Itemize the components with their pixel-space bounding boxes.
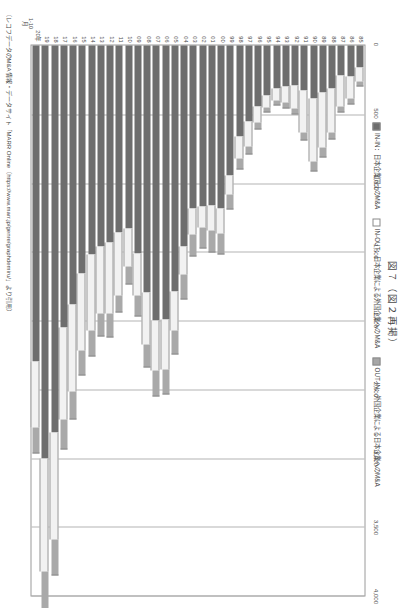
bar-segment-out-in: [162, 369, 169, 394]
bar-segment-in-in: [32, 45, 39, 361]
bar-segment-in-in: [226, 45, 233, 175]
bar-segment-in-out: [261, 95, 270, 107]
bar-segment-in-in: [273, 45, 280, 88]
bar-segment-in-out: [104, 242, 113, 313]
bar-segment-out-in: [134, 295, 141, 316]
bar-segment-in-in: [97, 45, 104, 246]
bar-segment-in-out: [317, 92, 326, 148]
bar-segment-out-in: [300, 132, 307, 140]
bar-segment-out-in: [254, 122, 261, 129]
bar-segment-in-out: [354, 67, 363, 81]
bar-segment-in-out: [298, 90, 307, 131]
bar-segment-in-out: [113, 232, 122, 295]
bar-segment-in-in: [300, 45, 307, 90]
y-category-label: 86: [348, 36, 354, 42]
bar-segment-out-in: [337, 106, 344, 112]
bar-segment-in-in: [51, 45, 58, 432]
x-tick-label: 2,500: [372, 381, 379, 396]
bar-segment-out-in: [208, 230, 215, 252]
y-category-label: 02: [200, 36, 206, 42]
bar-row: [162, 45, 169, 394]
y-axis-category-labels: 8586878889909192939495969798990001020304…: [30, 20, 365, 44]
bar-segment-out-in: [78, 350, 85, 375]
bar-segment-in-in: [69, 45, 76, 304]
bar-row: [310, 45, 317, 171]
bar-row: [236, 45, 243, 169]
y-category-label: 99: [228, 36, 234, 42]
bar-row: [143, 45, 150, 367]
bar-segment-in-out: [160, 319, 169, 369]
bar-segment-out-in: [51, 539, 58, 576]
bar-row: [347, 45, 354, 104]
bar-segment-in-out: [280, 86, 289, 102]
y-category-label: 90: [311, 36, 317, 42]
x-axis-tick-labels: 05001,0001,5002,0002,5003,0003,5004,000: [365, 44, 379, 596]
bar-segment-out-in: [143, 344, 150, 366]
bar-row: [254, 45, 261, 129]
bar-segment-out-in: [60, 419, 67, 449]
bar-row: [208, 45, 215, 252]
bar-row: [245, 45, 252, 154]
bar-segment-in-out: [141, 292, 150, 344]
bar-segment-in-out: [123, 228, 132, 266]
bar-row: [226, 45, 233, 209]
y-category-label: 16: [71, 36, 77, 42]
bar-segment-out-in: [106, 313, 113, 337]
bar-row: [60, 45, 67, 449]
bar-segment-in-out: [345, 76, 354, 98]
chart-sheet: 図７（図２再掲） IN-IN：日本企業同士のM&A IN-OUT：日本企業による…: [0, 0, 405, 608]
bar-segment-out-in: [125, 266, 132, 284]
bar-segment-out-in: [115, 295, 122, 312]
y-category-label: 95: [265, 36, 271, 42]
bar-segment-in-out: [150, 320, 159, 370]
y-category-label: 03: [191, 36, 197, 42]
bar-segment-out-in: [236, 158, 243, 168]
bar-segment-in-in: [337, 45, 344, 75]
y-category-label: 93: [283, 36, 289, 42]
y-category-label: 20年: [33, 30, 41, 42]
bar-segment-in-in: [263, 45, 270, 95]
bar-row: [273, 45, 280, 105]
bar-row: [152, 45, 159, 396]
rotated-chart-wrapper: 図７（図２再掲） IN-IN：日本企業同士のM&A IN-OUT：日本企業による…: [0, 0, 405, 608]
bar-row: [337, 45, 344, 112]
y-category-label: 92: [293, 36, 299, 42]
y-category-label: 06: [163, 36, 169, 42]
bar-segment-in-in: [356, 45, 363, 67]
bar-segment-in-out: [252, 106, 261, 122]
y-category-label: 18: [52, 36, 58, 42]
y-category-label: 10: [126, 36, 132, 42]
bar-segment-in-in: [60, 45, 67, 327]
bar-segment-out-in: [273, 100, 280, 105]
y-category-label: 00: [219, 36, 225, 42]
y-category-label: 19: [43, 36, 49, 42]
bar-segment-in-out: [215, 208, 224, 233]
bar-segment-out-in: [328, 132, 335, 139]
bar-row: [78, 45, 85, 375]
bar-segment-out-in: [217, 233, 224, 254]
bar-segment-in-in: [245, 45, 252, 121]
bar-segment-out-in: [97, 313, 104, 336]
bar-segment-in-out: [178, 246, 187, 274]
bar-row: [217, 45, 224, 254]
bar-segment-out-in: [263, 107, 270, 112]
bar-segment-in-in: [291, 45, 298, 85]
bar-segment-in-out: [187, 208, 196, 233]
bar-segment-in-out: [86, 254, 95, 331]
figure-title: 図７（図２再掲）: [385, 0, 399, 608]
bar-segment-in-out: [234, 136, 243, 159]
bar-segment-in-in: [134, 45, 141, 253]
page-canvas: 図７（図２再掲） IN-IN：日本企業同士のM&A IN-OUT：日本企業による…: [0, 0, 405, 608]
x-tick-label: 1,500: [372, 243, 379, 258]
y-category-label: 98: [237, 36, 243, 42]
bar-segment-in-out: [169, 291, 178, 330]
bar-segment-out-in: [69, 391, 76, 419]
y-category-label: 11: [117, 36, 123, 42]
bar-segment-in-out: [289, 85, 298, 108]
bar-segment-out-in: [88, 330, 95, 356]
y-category-label: 09: [135, 36, 141, 42]
y-category-label: 91: [302, 36, 308, 42]
bar-row: [69, 45, 76, 419]
bar-segment-in-out: [335, 75, 344, 106]
y-category-label: 12: [108, 36, 114, 42]
